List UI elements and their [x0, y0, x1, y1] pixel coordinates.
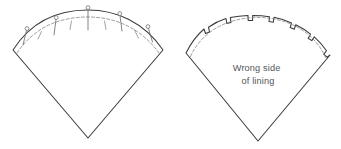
wrong-side-label-line1: Wrong side	[233, 63, 281, 73]
pin-head-icon	[146, 25, 150, 29]
clipped-lining-figure: Wrong side of lining	[186, 15, 330, 141]
pin-head-icon	[118, 12, 122, 16]
pin-head-icon	[86, 6, 90, 10]
sewing-diagram-svg: Wrong side of lining	[0, 0, 341, 149]
pin-head-icon	[25, 27, 29, 31]
wrong-side-label-line2: of lining	[241, 76, 274, 86]
diagram-canvas: Wrong side of lining	[0, 0, 341, 149]
pinned-collar-figure	[13, 6, 163, 138]
pin-head-icon	[54, 16, 58, 20]
